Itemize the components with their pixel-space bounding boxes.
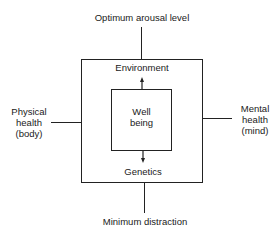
bottom-connector-line [144, 183, 145, 213]
right-connector-line [203, 118, 232, 119]
right-label-line2: health [232, 114, 278, 125]
left-label-line1: Physical [4, 106, 54, 117]
genetics-label: Genetics [113, 166, 173, 177]
center-label-line1: Well [111, 106, 172, 117]
left-connector-line [51, 122, 81, 123]
left-label-line2: health [4, 117, 54, 128]
right-label-line1: Mental [232, 103, 278, 114]
right-label: Mental health (mind) [232, 103, 278, 136]
left-label: Physical health (body) [4, 106, 54, 139]
bottom-label: Minimum distraction [90, 216, 200, 227]
center-label-line2: being [111, 117, 172, 128]
right-label-line3: (mind) [232, 125, 278, 136]
center-label: Well being [111, 106, 172, 128]
left-label-line3: (body) [4, 128, 54, 139]
arrow-down-icon [141, 158, 145, 163]
arrow-up-icon [140, 77, 144, 82]
